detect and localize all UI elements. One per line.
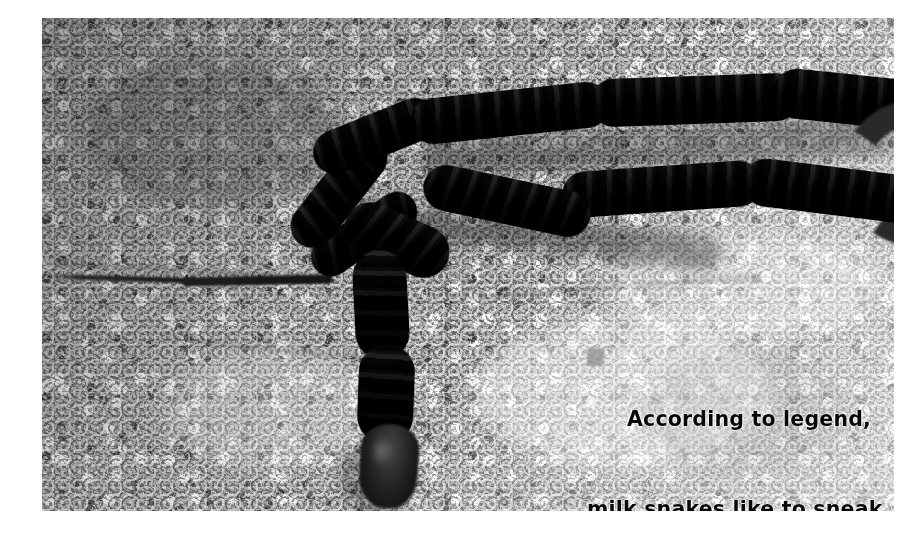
snake-body-top-2 (589, 72, 801, 127)
caption-line-1: According to legend, (587, 404, 894, 434)
snake-tail-segment (182, 274, 332, 286)
snake-head (357, 422, 421, 510)
page-canvas: According to legend, milk snakes like to… (0, 0, 908, 540)
photo-caption: According to legend, milk snakes like to… (587, 344, 894, 511)
snake-head-highlight (370, 436, 392, 466)
snake-tail-tip (46, 274, 196, 283)
snake-photograph: According to legend, milk snakes like to… (42, 18, 894, 511)
caption-line-2: milk snakes like to sneak (587, 494, 894, 511)
